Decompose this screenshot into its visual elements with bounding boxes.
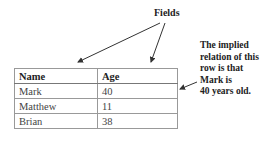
header-age: Age — [98, 69, 178, 84]
cell-name: Mark — [15, 84, 98, 99]
arrow-to-name-column — [78, 23, 160, 62]
cell-name: Matthew — [15, 99, 98, 114]
cell-name: Brian — [15, 114, 98, 129]
header-row: Name Age — [15, 69, 178, 84]
table-row: Mark 40 — [15, 84, 178, 99]
table-row: Brian 38 — [15, 114, 178, 129]
note-line: The implied — [200, 40, 259, 52]
note-line: relation of this — [200, 52, 259, 64]
note-line: 40 years old. — [200, 86, 259, 98]
cell-age: 38 — [98, 114, 178, 129]
header-name: Name — [15, 69, 98, 84]
relation-table: Name Age Mark 40 Matthew 11 Brian 38 — [14, 68, 178, 129]
fields-label: Fields — [154, 7, 180, 18]
note-line: row is that — [200, 63, 259, 75]
note-line: Mark is — [200, 75, 259, 87]
cell-age: 11 — [98, 99, 178, 114]
relation-note: The implied relation of this row is that… — [200, 40, 259, 98]
table-row: Matthew 11 — [15, 99, 178, 114]
cell-age: 40 — [98, 84, 178, 99]
arrow-to-row — [180, 82, 197, 89]
arrow-to-age-column — [151, 23, 165, 62]
